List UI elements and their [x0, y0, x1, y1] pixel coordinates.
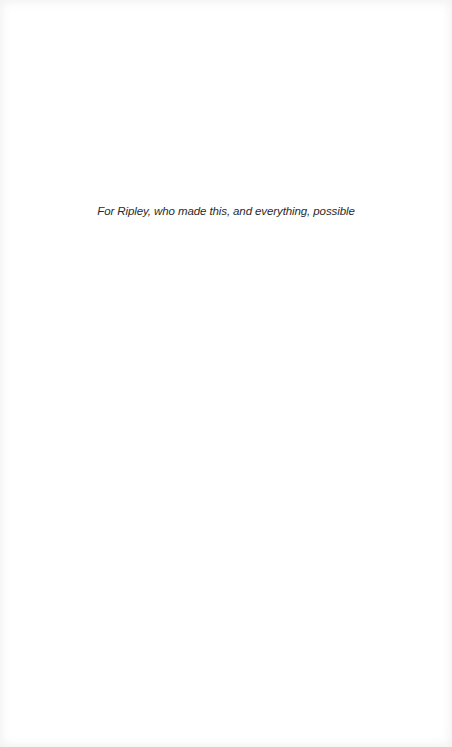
book-page: For Ripley, who made this, and everythin… [0, 0, 452, 747]
dedication-text: For Ripley, who made this, and everythin… [0, 205, 452, 217]
